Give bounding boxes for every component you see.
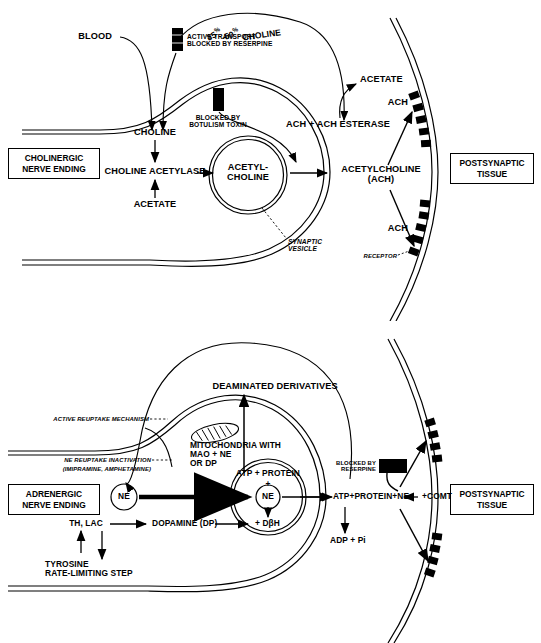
ach-upper-label: ACH xyxy=(388,98,408,108)
blood-label: BLOOD xyxy=(78,32,112,42)
th-lac-label: TH, LAC xyxy=(69,519,103,528)
active-reuptake-mechanism-label: ACTIVE REUPTAKE MECHANISM xyxy=(53,416,149,422)
ach-ach-esterase-label: ACH + ACH ESTERASE xyxy=(286,120,390,130)
comt-label: +COMT xyxy=(422,492,452,501)
postsynaptic-tissue-box-bottom: POSTSYNAPTIC TISSUE xyxy=(450,484,534,515)
dbh-label: + DβH xyxy=(255,519,280,528)
reserpine-block-bar xyxy=(172,28,183,51)
cholinergic-nerve-ending-box: CHOLINERGIC NERVE ENDING xyxy=(8,148,100,179)
plus-sign-label: + xyxy=(266,480,271,489)
choline-acetylase-label: CHOLINE ACETYLASE xyxy=(105,167,206,177)
reserpine-block-bar-adrenergic xyxy=(379,459,407,491)
ne-reuptake-drugs-label: (IMIPRAMINE, AMPHETAMINE) xyxy=(63,466,151,472)
acetyl-choline-vesicle-label: ACETYL- CHOLINE xyxy=(227,163,269,183)
ne-reuptake-inactivation-label: NE REUPTAKE INACTIVATION xyxy=(64,457,151,463)
botulism-block-bar xyxy=(213,88,224,111)
postsynaptic-tissue-box-top: POSTSYNAPTIC TISSUE xyxy=(450,153,534,184)
atp-protein-label: ATP + PROTEIN xyxy=(236,469,300,478)
ach-lower-label: ACH xyxy=(388,224,408,234)
cholinergic-synapse-panel: CHOLINERGIC NERVE ENDING POSTSYNAPTIC TI… xyxy=(0,0,541,321)
ne-cytosol-label: NE xyxy=(118,492,130,501)
atp-protein-ne-label: ATP+PROTEIN+NE xyxy=(333,492,409,501)
receptor-label: RECEPTOR xyxy=(364,253,397,259)
deaminated-derivatives-label: DEAMINATED DERIVATIVES xyxy=(212,382,337,392)
tyrosine-rate-limiting-label: TYROSINE RATE-LIMITING STEP xyxy=(45,560,133,578)
mitochondria-mao-label: MITOCHONDRIA WITH MAO + NE OR DP xyxy=(190,441,281,468)
active-transport-reserpine-label: ACTIVE TRANSPORT BLOCKED BY RESERPINE xyxy=(187,33,272,47)
dopamine-dp-label: DOPAMINE (DP) xyxy=(152,519,217,528)
ne-vesicle-label: NE xyxy=(262,492,274,501)
blocked-botulism-toxin-label: BLOCKED BY BOTULISM TOXIN xyxy=(189,114,247,128)
blocked-by-reserpine-label: BLOCKED BY RESERPINE xyxy=(336,460,376,473)
acetate-left-label: ACETATE xyxy=(134,200,177,210)
adrenergic-nerve-ending-box: ADRENERGIC NERVE ENDING xyxy=(8,484,100,515)
adrenergic-diagram-lines xyxy=(0,321,541,643)
acetate-right-label: ACETATE xyxy=(360,75,403,85)
adp-pi-label: ADP + Pi xyxy=(330,536,366,545)
adrenergic-synapse-panel: ADRENERGIC NERVE ENDING POSTSYNAPTIC TIS… xyxy=(0,321,541,643)
synaptic-vesicle-label: SYNAPTIC VESICLE xyxy=(288,238,322,252)
acetylcholine-ach-label: ACETYLCHOLINE (ACH) xyxy=(341,165,420,185)
choline-label: CHOLINE xyxy=(134,128,176,138)
